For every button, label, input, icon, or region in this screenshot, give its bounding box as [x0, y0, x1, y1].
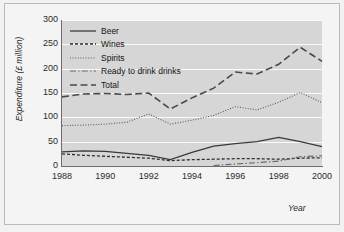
- y-tick-label: 150: [4, 88, 58, 97]
- legend-item-total[interactable]: Total: [70, 78, 196, 92]
- y-tick-label: 200: [4, 64, 58, 73]
- x-axis-line: [61, 166, 323, 167]
- gridline: [62, 142, 322, 143]
- legend-label: Total: [101, 80, 119, 90]
- x-tick-label: 1990: [88, 172, 122, 181]
- x-tick-label: 1998: [262, 172, 296, 181]
- x-tick-label: 1988: [45, 172, 79, 181]
- legend-item-spirits[interactable]: Spirits: [70, 51, 196, 65]
- y-tick-label: 0: [4, 161, 58, 170]
- plot-wrapper: 050100150200250300 198819901992199419961…: [0, 0, 344, 232]
- y-tick-label: 250: [4, 39, 58, 48]
- legend-line-icon: [70, 53, 96, 63]
- x-tick-label: 1996: [218, 172, 252, 181]
- legend-line-icon: [70, 80, 96, 90]
- gridline: [62, 93, 322, 94]
- legend-label: Spirits: [101, 53, 125, 63]
- chart-figure: 050100150200250300 198819901992199419961…: [0, 0, 344, 232]
- legend-line-icon: [70, 39, 96, 49]
- x-tick-label: 2000: [305, 172, 339, 181]
- y-tick-label: 100: [4, 112, 58, 121]
- x-tick-label: 1992: [132, 172, 166, 181]
- legend-item-beer[interactable]: Beer: [70, 24, 196, 38]
- legend-item-ready-to-drink-drinks[interactable]: Ready to drink drinks: [70, 65, 196, 79]
- legend-item-wines[interactable]: Wines: [70, 38, 196, 52]
- chart-legend: BeerWinesSpiritsReady to drink drinksTot…: [70, 24, 196, 92]
- y-tick-label: 300: [4, 15, 58, 24]
- gridline: [62, 117, 322, 118]
- legend-line-icon: [70, 66, 96, 76]
- y-tick-label: 50: [4, 137, 58, 146]
- gridline: [62, 20, 322, 21]
- legend-label: Beer: [101, 26, 119, 36]
- legend-label: Wines: [101, 39, 125, 49]
- x-axis-title: Year: [288, 203, 306, 213]
- legend-label: Ready to drink drinks: [101, 66, 181, 76]
- legend-line-icon: [70, 26, 96, 36]
- y-axis-title: Expenditure (£ million): [14, 24, 24, 134]
- x-tick-label: 1994: [175, 172, 209, 181]
